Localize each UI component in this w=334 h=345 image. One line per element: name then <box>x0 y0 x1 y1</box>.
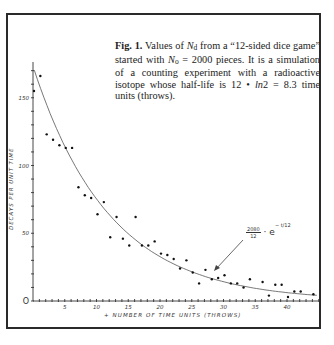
data-point <box>128 244 130 246</box>
data-point <box>39 75 41 77</box>
data-point <box>134 216 136 218</box>
data-point <box>84 194 86 196</box>
y-tick-label: O <box>23 297 29 306</box>
data-point <box>109 236 111 238</box>
data-point <box>198 282 200 284</box>
data-point <box>230 282 232 284</box>
data-point <box>147 244 149 246</box>
data-point <box>211 278 213 280</box>
data-point <box>77 186 79 188</box>
data-point <box>173 258 175 260</box>
x-tick-label: 35 <box>252 304 259 310</box>
formula-fraction: 2080 12 <box>246 226 261 239</box>
data-point <box>217 277 219 279</box>
data-point <box>192 271 194 273</box>
fit-formula: 2080 12 · e− t/12 <box>246 222 291 239</box>
data-point <box>96 213 98 215</box>
x-tick-label: 40 <box>284 304 291 310</box>
data-point <box>242 286 244 288</box>
data-point <box>268 294 270 296</box>
data-point <box>300 290 302 292</box>
data-point <box>46 133 48 135</box>
data-point <box>261 281 263 283</box>
data-point <box>223 274 225 276</box>
data-point <box>52 139 54 141</box>
data-point <box>160 252 162 254</box>
data-point <box>185 259 187 261</box>
data-point <box>293 290 295 292</box>
y-tick-label: 150 <box>19 95 30 101</box>
data-points <box>33 75 315 298</box>
x-tick-label: 15 <box>125 304 132 310</box>
data-point <box>71 147 73 149</box>
data-point <box>280 284 282 286</box>
data-point <box>115 216 117 218</box>
x-tick-label: 25 <box>188 304 195 310</box>
x-axis-label: + NUMBER OF TIME UNITS (THROWS) <box>104 312 242 318</box>
data-point <box>204 269 206 271</box>
annotation-arrow <box>216 240 243 269</box>
data-point <box>90 197 92 199</box>
data-point <box>103 201 105 203</box>
x-tick-label: 10 <box>93 304 100 310</box>
data-point <box>287 296 289 298</box>
decay-chart: O50100150510152025303540 <box>0 0 334 345</box>
data-point <box>141 244 143 246</box>
data-point <box>166 254 168 256</box>
data-point <box>249 278 251 280</box>
data-point <box>33 90 35 92</box>
y-tick-label: 100 <box>19 163 30 169</box>
data-point <box>312 293 314 295</box>
data-point <box>122 237 124 239</box>
data-point <box>236 282 238 284</box>
fit-curve <box>34 70 317 295</box>
data-point <box>274 284 276 286</box>
data-point <box>65 147 67 149</box>
tick-labels: O50100150510152025303540 <box>19 95 291 310</box>
x-tick-label: 5 <box>63 304 67 310</box>
data-point <box>179 267 181 269</box>
data-point <box>58 144 60 146</box>
x-tick-label: 30 <box>220 304 227 310</box>
x-tick-label: 20 <box>157 304 164 310</box>
chart-axes <box>31 62 319 302</box>
y-tick-label: 50 <box>22 230 29 236</box>
data-point <box>153 240 155 242</box>
y-axis-label: DECAYS PER UNIT TIME <box>8 148 14 230</box>
